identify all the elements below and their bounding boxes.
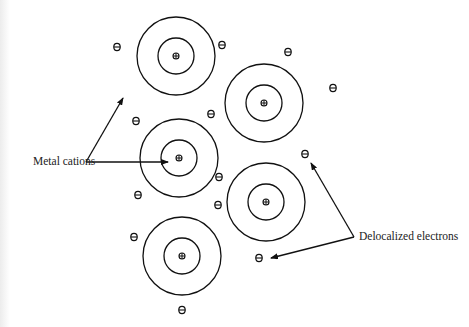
metal-cations-group <box>137 17 305 295</box>
plus-charge-icon <box>176 155 182 161</box>
metal-cation <box>137 17 215 95</box>
minus-charge-icon <box>131 233 137 240</box>
pointer-arrow-icon <box>86 98 123 162</box>
minus-charge-icon <box>208 110 214 117</box>
minus-charge-icon <box>114 43 120 50</box>
metal-cations-label: Metal cations <box>33 155 95 167</box>
minus-charge-icon <box>133 117 139 124</box>
minus-charge-icon <box>135 191 141 198</box>
plus-charge-icon <box>263 199 269 205</box>
arrows-group <box>86 98 354 258</box>
minus-charge-icon <box>256 254 262 261</box>
plus-charge-icon <box>179 253 185 259</box>
minus-charge-icon <box>219 41 225 48</box>
metallic-bonding-diagram: Metal cations Delocalized electrons <box>0 0 469 327</box>
delocalized-electrons-label: Delocalized electrons <box>359 230 458 242</box>
minus-charge-icon <box>215 201 221 208</box>
minus-charge-icon <box>216 173 222 180</box>
plus-charge-icon <box>261 100 267 106</box>
plus-charge-icon <box>173 53 179 59</box>
minus-charge-icon <box>302 150 308 157</box>
pointer-arrow-icon <box>311 163 354 237</box>
pointer-arrow-icon <box>271 237 354 258</box>
minus-charge-icon <box>330 84 336 91</box>
minus-charge-icon <box>179 306 185 313</box>
metal-cation <box>227 163 305 241</box>
metal-cation <box>143 217 221 295</box>
metal-cation <box>140 119 218 197</box>
metal-cation <box>225 64 303 142</box>
minus-charge-icon <box>285 48 291 55</box>
